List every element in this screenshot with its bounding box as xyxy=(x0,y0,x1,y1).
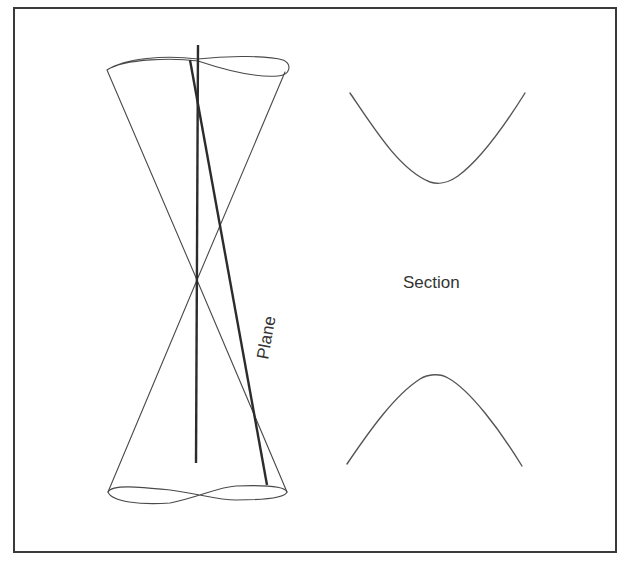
cutting-plane xyxy=(190,60,267,485)
conic-section-diagram: Plane Section xyxy=(0,0,634,571)
lower-nappe-rim xyxy=(108,486,287,504)
hyperbola-upper-branch xyxy=(350,93,525,183)
upper-nappe-left-edge xyxy=(107,70,197,280)
section-label: Section xyxy=(403,273,460,292)
plane-label: Plane xyxy=(253,315,279,361)
hyperbola-lower-branch xyxy=(347,375,522,466)
lower-nappe-right-edge xyxy=(197,280,287,492)
lower-nappe-left-edge xyxy=(108,280,197,492)
